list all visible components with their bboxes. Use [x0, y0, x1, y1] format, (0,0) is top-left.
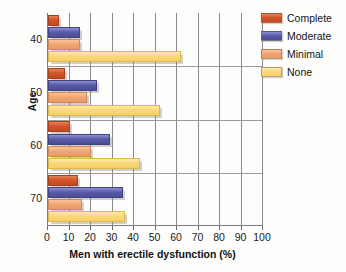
bar-complete-age-40 [48, 15, 59, 26]
x-tick-label: 60 [164, 231, 188, 243]
legend-item-moderate: Moderate [261, 27, 345, 45]
x-tick-label: 100 [250, 231, 274, 243]
bar-minimal-age-50 [48, 92, 87, 103]
legend-swatch-moderate [261, 31, 282, 41]
group-separator [47, 120, 262, 121]
bar-moderate-age-70 [48, 187, 123, 198]
legend-swatch-complete [261, 13, 282, 23]
x-tick-mark [176, 226, 177, 230]
x-tick-label: 0 [35, 231, 59, 243]
x-tick-mark [69, 226, 70, 230]
bar-complete-age-70 [48, 175, 78, 186]
legend-item-none: None [261, 63, 345, 81]
bar-moderate-age-40 [48, 27, 80, 38]
bar-none-age-40 [48, 51, 181, 62]
x-tick-label: 40 [121, 231, 145, 243]
bar-complete-age-50 [48, 68, 65, 79]
x-tick-mark [112, 226, 113, 230]
bar-none-age-60 [48, 158, 140, 169]
y-tick-label-70: 70 [16, 192, 42, 204]
bar-minimal-age-70 [48, 199, 82, 210]
bar-minimal-age-40 [48, 39, 80, 50]
y-tick-label-60: 60 [16, 139, 42, 151]
x-tick-mark [198, 226, 199, 230]
chart-legend: CompleteModerateMinimalNone [261, 9, 345, 81]
legend-swatch-none [261, 67, 282, 77]
x-tick-mark [133, 226, 134, 230]
bar-minimal-age-60 [48, 146, 91, 157]
bar-moderate-age-50 [48, 80, 97, 91]
legend-item-complete: Complete [261, 9, 345, 27]
x-tick-mark [90, 226, 91, 230]
x-tick-mark [262, 226, 263, 230]
bar-complete-age-60 [48, 121, 70, 132]
x-tick-label: 10 [57, 231, 81, 243]
bar-moderate-age-60 [48, 134, 110, 145]
group-separator [47, 66, 262, 67]
x-tick-label: 50 [143, 231, 167, 243]
bar-none-age-50 [48, 105, 160, 116]
legend-item-minimal: Minimal [261, 45, 345, 63]
x-tick-label: 70 [186, 231, 210, 243]
legend-label-complete: Complete [287, 12, 332, 24]
group-separator [47, 173, 262, 174]
bar-chart: Age 40506070 0102030405060708090100 Men … [0, 0, 346, 272]
y-tick-label-50: 50 [16, 86, 42, 98]
legend-swatch-minimal [261, 49, 282, 59]
y-tick-label-40: 40 [16, 33, 42, 45]
x-tick-mark [155, 226, 156, 230]
x-tick-label: 30 [100, 231, 124, 243]
y-axis-title: Age [27, 72, 38, 132]
x-axis-title: Men with erectile dysfunction (%) [30, 248, 275, 260]
legend-label-moderate: Moderate [287, 30, 331, 42]
x-tick-label: 90 [229, 231, 253, 243]
x-tick-label: 80 [207, 231, 231, 243]
legend-label-none: None [287, 66, 312, 78]
plot-area [47, 13, 262, 226]
x-tick-label: 20 [78, 231, 102, 243]
bar-none-age-70 [48, 211, 125, 222]
x-tick-mark [219, 226, 220, 230]
legend-label-minimal: Minimal [287, 48, 323, 60]
x-tick-mark [241, 226, 242, 230]
x-tick-mark [47, 226, 48, 230]
